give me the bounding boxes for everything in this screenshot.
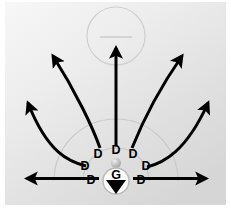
- diagram-canvas: D D D D D D D G: [0, 0, 231, 223]
- detector-label-5: D: [128, 147, 137, 161]
- bead-icon: [111, 158, 121, 168]
- detector-label-1: D: [86, 173, 95, 187]
- detector-label-7: D: [136, 173, 145, 187]
- detector-label-2: D: [80, 159, 89, 173]
- diagram-svg: D D D D D D D G: [0, 0, 231, 223]
- detector-label-3: D: [93, 147, 102, 161]
- detector-label-6: D: [141, 159, 150, 173]
- detector-label-4: D: [111, 143, 120, 157]
